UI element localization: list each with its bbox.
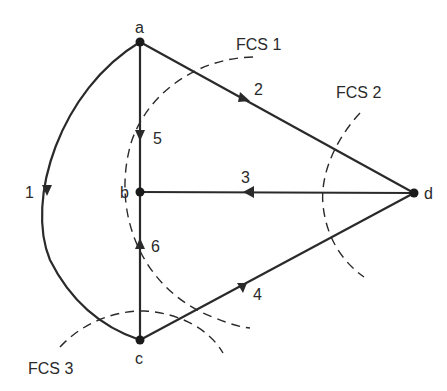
cutset-label-fcs1: FCS 1 (236, 36, 281, 53)
cutset-label-fcs2: FCS 2 (336, 84, 381, 101)
node-label-c: c (135, 350, 143, 367)
edge-3 (140, 192, 414, 193)
node-a (136, 38, 145, 47)
node-label-d: d (424, 185, 433, 202)
graph-diagram: a b c d 1 2 3 4 5 6 FCS 1 FCS 2 FCS 3 (0, 0, 447, 391)
edge-label-1: 1 (25, 184, 34, 201)
edge-label-5: 5 (153, 130, 162, 147)
node-b (136, 188, 145, 197)
arrow-edge-3 (243, 186, 254, 198)
edge-label-6: 6 (151, 238, 160, 255)
edge-label-2: 2 (254, 81, 263, 98)
cutset-label-fcs3: FCS 3 (28, 360, 73, 377)
edge-2 (140, 42, 414, 193)
edge-label-4: 4 (253, 286, 262, 303)
node-label-b: b (120, 184, 129, 201)
edge-label-3: 3 (241, 169, 250, 186)
node-c (136, 336, 145, 345)
node-d (410, 189, 419, 198)
cutset-fcs2 (323, 113, 364, 277)
arrow-edge-2 (238, 92, 250, 102)
edge-4 (140, 193, 414, 340)
arrow-edge-5 (135, 130, 145, 141)
cutset-fcs3 (60, 311, 223, 353)
node-label-a: a (135, 19, 144, 36)
